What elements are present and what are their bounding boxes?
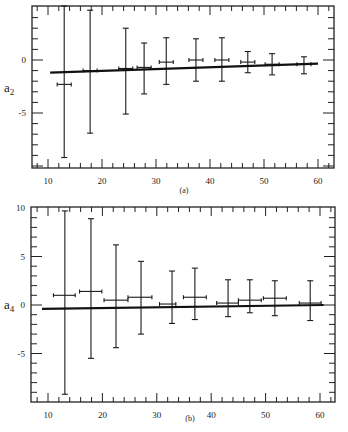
data-point [241, 52, 255, 73]
data-point [189, 39, 203, 81]
panel-label: (a) [180, 186, 189, 195]
fit-line [42, 305, 324, 309]
panel-a: 1020304050600-5a2(a) [4, 6, 334, 195]
data-point [160, 271, 176, 323]
x-tick-label: 20 [98, 176, 108, 186]
data-point [238, 280, 261, 313]
y-tick-label: -5 [18, 349, 26, 359]
data-point [80, 219, 102, 359]
panel-b: 1020304050601050-5a4(b) [4, 203, 335, 423]
data-point [183, 268, 206, 319]
y-tick-label: 0 [21, 300, 26, 310]
x-tick-label: 40 [206, 176, 216, 186]
data-point [263, 281, 286, 316]
x-tick-label: 60 [316, 410, 326, 420]
panel-label: (b) [185, 414, 195, 423]
data-point [53, 211, 75, 394]
figure: 1020304050600-5a2(a) 1020304050601050-5a… [0, 0, 348, 432]
data-point [215, 38, 229, 81]
x-tick-label: 20 [98, 410, 108, 420]
x-tick-label: 30 [152, 410, 162, 420]
data-point [57, 6, 71, 158]
data-point [128, 261, 152, 334]
x-tick-label: 10 [44, 410, 54, 420]
y-axis-label: a4 [4, 297, 15, 314]
y-axis-label-subscript: 4 [10, 304, 15, 314]
x-tick-label: 50 [260, 176, 270, 186]
chart-svg: 1020304050600-5a2(a) 1020304050601050-5a… [0, 0, 348, 432]
y-axis-label: a2 [4, 80, 14, 97]
x-tick-label: 10 [44, 176, 54, 186]
x-tick-label: 60 [314, 176, 324, 186]
y-tick-label: 0 [22, 55, 27, 65]
data-point [299, 281, 321, 321]
x-tick-label: 40 [207, 410, 217, 420]
data-point [104, 245, 128, 348]
plot-frame [32, 6, 334, 168]
data-point [159, 38, 173, 85]
y-tick-label: -5 [19, 108, 27, 118]
y-tick-label: 10 [16, 203, 26, 213]
y-axis-label-subscript: 2 [10, 87, 15, 97]
x-tick-label: 30 [152, 176, 162, 186]
y-tick-label: 5 [21, 252, 26, 262]
x-tick-label: 50 [261, 410, 271, 420]
data-point [217, 280, 239, 317]
